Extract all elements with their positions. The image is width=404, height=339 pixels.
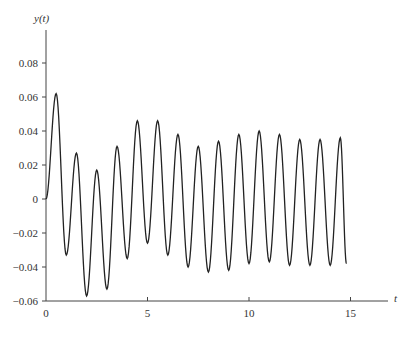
x-tick-label: 10 (244, 307, 256, 319)
x-tick-label: 15 (345, 307, 357, 319)
y-tick-label: 0 (33, 193, 39, 205)
x-tick-label: 5 (145, 307, 151, 319)
y-axis-label: y(t) (33, 12, 50, 25)
y-tick-label: 0.04 (19, 125, 39, 137)
line-chart: 0.080.060.040.020−0.02−0.04−0.06051015 y… (0, 0, 404, 339)
x-axis-label: t (394, 292, 398, 304)
y-tick-label: 0.08 (19, 57, 39, 69)
y-tick-label: −0.04 (13, 261, 39, 273)
y-tick-label: 0.06 (19, 91, 39, 103)
axes: 0.080.060.040.020−0.02−0.04−0.06051015 (13, 30, 388, 319)
series-line (46, 94, 346, 296)
y-tick-label: 0.02 (19, 159, 38, 171)
x-tick-label: 0 (43, 307, 49, 319)
y-tick-label: −0.06 (13, 295, 39, 307)
y-tick-label: −0.02 (13, 227, 38, 239)
